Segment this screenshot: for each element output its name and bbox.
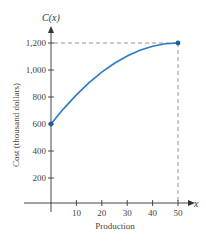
y-axis-title: Cost (thousand dollars)	[11, 83, 21, 167]
endpoint-marker	[176, 41, 181, 46]
x-axis-variable-label: x	[193, 198, 199, 209]
y-tick-label: 400	[33, 146, 47, 156]
reference-lines	[54, 43, 178, 203]
x-tick-label: 50	[174, 208, 184, 218]
y-axis-arrow-icon	[48, 26, 54, 33]
y-tick-label: 800	[33, 92, 47, 102]
axes	[24, 26, 195, 212]
x-tick-label: 20	[97, 208, 107, 218]
y-tick-label: 600	[33, 119, 47, 129]
cost-chart: 10203040502004006008001,0001,200 C(x) x …	[0, 0, 206, 242]
y-tick-label: 1,200	[26, 38, 47, 48]
x-tick-label: 30	[123, 208, 133, 218]
x-tick-label: 10	[72, 208, 82, 218]
x-axis-title: Production	[95, 221, 135, 231]
y-axis-function-label: C(x)	[42, 12, 60, 24]
y-tick-label: 1,000	[26, 65, 47, 75]
cost-curve	[51, 43, 178, 124]
y-tick-label: 200	[33, 173, 47, 183]
ticks: 10203040502004006008001,0001,200	[26, 38, 183, 218]
endpoint-marker	[49, 122, 54, 127]
x-tick-label: 40	[148, 208, 158, 218]
endpoints	[49, 41, 181, 127]
